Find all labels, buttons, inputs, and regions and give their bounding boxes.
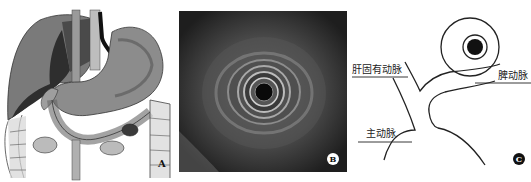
panel-a-anatomy-illustration: A xyxy=(0,0,178,182)
ultrasound-rings xyxy=(179,11,347,172)
vessel-schematic xyxy=(350,0,531,182)
label-splenic-artery: 脾动脉 xyxy=(498,71,528,81)
anatomy-drawing xyxy=(0,0,178,182)
panel-c-schematic: 肝固有动脉 脾动脉 主动脉 C xyxy=(350,0,531,182)
panel-a-letter: A xyxy=(158,158,166,169)
panel-b-letter-badge: B xyxy=(327,153,339,165)
panel-b-ultrasound-image: B xyxy=(179,11,347,172)
label-hepatic-artery: 肝固有动脉 xyxy=(352,65,402,75)
label-aorta: 主动脉 xyxy=(366,129,396,139)
panel-c-letter-badge: C xyxy=(513,153,525,165)
probe-core xyxy=(467,39,483,55)
